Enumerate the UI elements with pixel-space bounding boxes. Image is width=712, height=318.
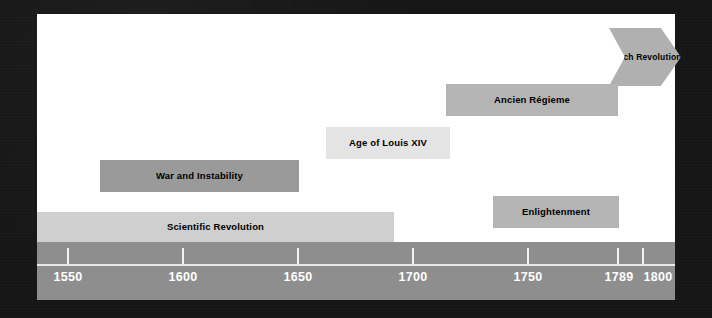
timeline-bar-label: French Revolution — [604, 52, 681, 63]
axis-tick-1800 — [642, 248, 644, 264]
axis-baseline — [37, 264, 675, 266]
timeline-bar-label: Enlightenment — [522, 207, 590, 218]
timeline-bar-age-of-louis-xiv[interactable]: Age of Louis XIV — [326, 127, 450, 159]
timeline-plot-area: French Revolution Ancien Régieme Age of … — [37, 14, 675, 242]
timeline-bar-label: War and Instability — [156, 171, 243, 182]
slide-background: French Revolution Ancien Régieme Age of … — [0, 0, 712, 318]
axis-tick-1600 — [182, 248, 184, 264]
axis-tick-label-1550: 1550 — [53, 270, 82, 284]
axis-tick-label-1789: 1789 — [604, 270, 633, 284]
axis-tick-label-1600: 1600 — [168, 270, 197, 284]
timeline-bar-war-and-instability[interactable]: War and Instability — [100, 160, 299, 192]
timeline-bar-enlightenment[interactable]: Enlightenment — [493, 196, 619, 228]
timeline-axis: 1550 1600 1650 1700 1750 1789 1800 — [37, 242, 675, 300]
timeline-bar-french-revolution[interactable]: French Revolution — [609, 28, 681, 86]
axis-tick-label-1750: 1750 — [513, 270, 542, 284]
axis-tick-1550 — [67, 248, 69, 264]
timeline-panel: French Revolution Ancien Régieme Age of … — [37, 14, 675, 300]
timeline-bar-label: Age of Louis XIV — [349, 138, 427, 149]
axis-tick-label-1800: 1800 — [643, 270, 672, 284]
axis-tick-1789 — [617, 248, 619, 264]
timeline-bar-ancien-regieme[interactable]: Ancien Régieme — [446, 84, 618, 116]
axis-tick-label-1700: 1700 — [398, 270, 427, 284]
timeline-bar-label: Ancien Régieme — [494, 95, 570, 106]
axis-tick-1650 — [297, 248, 299, 264]
axis-tick-label-1650: 1650 — [283, 270, 312, 284]
timeline-bar-scientific-revolution[interactable]: Scientific Revolution — [37, 212, 394, 242]
axis-tick-1750 — [527, 248, 529, 264]
axis-tick-1700 — [412, 248, 414, 264]
timeline-bar-label: Scientific Revolution — [167, 222, 264, 233]
